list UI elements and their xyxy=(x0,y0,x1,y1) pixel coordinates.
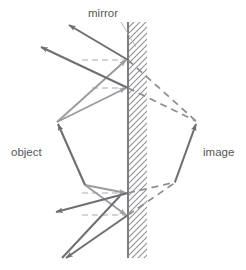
incident-ray-tip-outer xyxy=(57,60,126,122)
mirror-label: mirror xyxy=(88,7,118,19)
ray-diagram-canvas: mirror object image xyxy=(0,0,246,270)
incident-ray-tip-inner xyxy=(57,88,126,122)
object-arrow xyxy=(58,124,85,185)
extended-incident-rays xyxy=(42,82,120,258)
incident-rays-upper xyxy=(57,60,126,122)
reflected-ray-upper-a xyxy=(69,25,128,60)
object-label: object xyxy=(11,146,42,158)
image-label: image xyxy=(203,146,234,158)
mirror-hatching xyxy=(129,22,147,258)
ray-diagram-figure: mirror object image xyxy=(0,0,246,270)
reflected-rays-upper xyxy=(41,25,128,88)
image-arrow xyxy=(175,124,196,182)
